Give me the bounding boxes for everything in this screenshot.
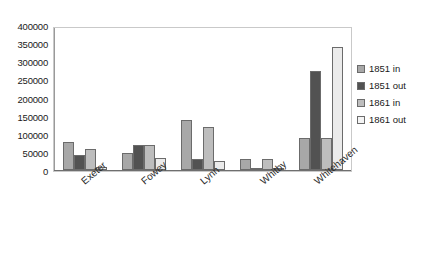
legend-label: 1861 out <box>369 114 406 125</box>
legend-item[interactable]: 1861 in <box>357 94 433 111</box>
bar <box>299 138 310 170</box>
bar-group <box>173 28 232 170</box>
bar <box>310 71 321 170</box>
bar-group <box>55 28 114 170</box>
x-axis-category-labels: ExeterFoweyLynnWhitbyWhitehaven <box>53 176 352 236</box>
bar <box>133 145 144 170</box>
y-tick-label: 250000 <box>0 76 48 86</box>
bar <box>63 142 74 170</box>
legend-item[interactable]: 1851 out <box>357 77 433 94</box>
legend-label: 1851 in <box>369 63 400 74</box>
bar-group <box>233 28 292 170</box>
plot-inner <box>54 28 351 171</box>
x-label-cell: Fowey <box>113 176 173 236</box>
x-label-cell: Lynn <box>173 176 233 236</box>
y-tick-label: 400000 <box>0 22 48 32</box>
bar-chart: 4000003500003000002500002000001500001000… <box>0 0 435 253</box>
legend-label: 1861 in <box>369 97 400 108</box>
y-tick-label: 0 <box>0 167 48 177</box>
y-tick-label: 50000 <box>0 149 48 159</box>
bar-group <box>292 28 351 170</box>
chart-legend: 1851 in1851 out1861 in1861 out <box>357 60 433 128</box>
bar-groups <box>55 28 351 170</box>
y-tick-label: 100000 <box>0 131 48 141</box>
y-tick-label: 150000 <box>0 113 48 123</box>
x-label-cell: Whitby <box>232 176 292 236</box>
bar <box>122 153 133 170</box>
legend-swatch-icon <box>357 116 365 124</box>
y-axis-line <box>54 28 55 171</box>
bar <box>192 159 203 170</box>
bar-group <box>114 28 173 170</box>
y-tick-label: 350000 <box>0 40 48 50</box>
legend-item[interactable]: 1851 in <box>357 60 433 77</box>
x-label-cell: Whitehaven <box>292 176 352 236</box>
legend-swatch-icon <box>357 65 365 73</box>
bar <box>74 155 85 170</box>
legend-swatch-icon <box>357 99 365 107</box>
y-tick-label: 200000 <box>0 95 48 105</box>
bar <box>203 127 214 170</box>
legend-label: 1851 out <box>369 80 406 91</box>
bar <box>240 159 251 170</box>
legend-item[interactable]: 1861 out <box>357 111 433 128</box>
legend-swatch-icon <box>357 82 365 90</box>
y-axis-tick-labels: 4000003500003000002500002000001500001000… <box>0 20 48 180</box>
y-tick-label: 300000 <box>0 58 48 68</box>
x-label-cell: Exeter <box>53 176 113 236</box>
bar <box>181 120 192 170</box>
plot-area <box>53 27 352 172</box>
